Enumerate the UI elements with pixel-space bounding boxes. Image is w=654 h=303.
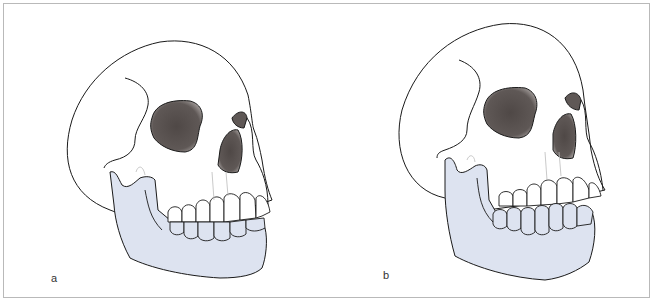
panel-a: a: [0, 0, 327, 303]
panel-b: b: [327, 0, 654, 303]
panel-label-b: b: [383, 269, 389, 281]
skull-illustration-a: [0, 0, 327, 303]
skull-illustration-b: [327, 0, 654, 303]
panel-label-a: a: [51, 272, 57, 284]
